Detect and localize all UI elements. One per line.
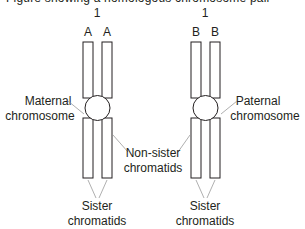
paternal-sister-label-line1: Sister <box>190 199 221 213</box>
maternal-chromatid-2-lower <box>102 118 112 178</box>
paternal-number-label: 1 <box>202 6 209 20</box>
paternal-label-line2: chromosome <box>230 109 300 123</box>
maternal-chromatid-1-upper <box>83 42 93 98</box>
paternal-centromere <box>193 96 218 121</box>
maternal-sister-leader-1 <box>88 180 96 198</box>
maternal-sister-leader-2 <box>99 180 107 198</box>
non-sister-label-line2: chromatids <box>124 161 183 175</box>
paternal-chromatid-1-lower <box>191 118 201 178</box>
maternal-chromatid-2-upper <box>102 42 112 98</box>
paternal-sister-leader-1 <box>196 180 204 198</box>
maternal-chromatid-1-lower <box>83 118 93 178</box>
paternal-chromatid-2-upper <box>210 42 220 98</box>
paternal-label-line1: Paternal <box>236 94 281 108</box>
paternal-sister-label-line2: chromatids <box>176 214 235 228</box>
paternal-allele-label-2: B <box>211 25 219 39</box>
paternal-chromatid-1-upper <box>191 42 201 98</box>
maternal-number-label: 1 <box>94 6 101 20</box>
maternal-sister-label-line1: Sister <box>82 199 113 213</box>
paternal-allele-label-1: B <box>192 25 200 39</box>
non-sister-label-line1: Non-sister <box>126 146 181 160</box>
maternal-sister-label-line2: chromatids <box>68 214 127 228</box>
maternal-label-line2: chromosome <box>5 109 75 123</box>
non-sister-chromatids-label: Non-sister chromatids <box>113 135 190 175</box>
maternal-allele-label-1: A <box>84 25 92 39</box>
maternal-chromosome: 1 A A Maternal chromosome Sister chromat… <box>5 6 126 228</box>
homologous-chromosome-diagram: 1 A A Maternal chromosome Sister chromat… <box>0 0 305 229</box>
paternal-chromatid-2-lower <box>210 118 220 178</box>
paternal-sister-leader-2 <box>207 180 215 198</box>
maternal-centromere <box>85 96 110 121</box>
paternal-chromosome: 1 B B Paternal chromosome Sister chromat… <box>176 6 300 228</box>
maternal-label-line1: Maternal <box>25 94 72 108</box>
maternal-allele-label-2: A <box>103 25 111 39</box>
